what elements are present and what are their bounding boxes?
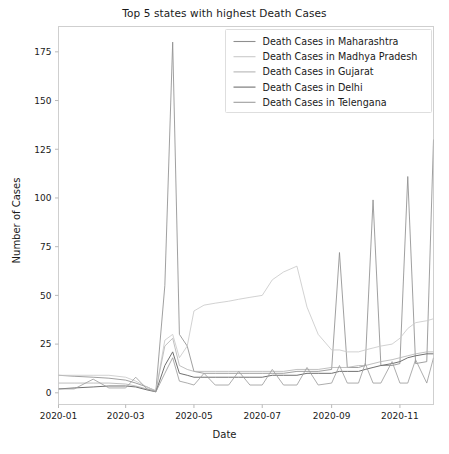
x-tick-label: 2020-09 — [313, 411, 351, 421]
y-tick-label: 0 — [46, 388, 52, 398]
chart-figure: Top 5 states with highest Death Cases Nu… — [0, 0, 449, 454]
x-tick-label: 2020-07 — [243, 411, 281, 421]
x-tick-label: 2020-03 — [107, 411, 145, 421]
y-tick-label: 150 — [34, 96, 51, 106]
x-tick-label: 2020-11 — [381, 411, 419, 421]
y-tick-label: 125 — [34, 145, 51, 155]
legend-label-0: Death Cases in Maharashtra — [263, 36, 399, 47]
x-tick-label: 2020-05 — [175, 411, 213, 421]
y-tick-label: 75 — [40, 242, 51, 252]
y-tick-label: 25 — [40, 339, 51, 349]
y-tick-label: 175 — [34, 47, 51, 57]
y-tick-label: 50 — [40, 291, 52, 301]
chart-legend: Death Cases in MaharashtraDeath Cases in… — [226, 30, 432, 113]
legend-label-2: Death Cases in Gujarat — [263, 66, 374, 77]
chart-plot-area: 02550751001251501752020-012020-032020-05… — [0, 0, 449, 454]
series-line-3 — [59, 352, 434, 392]
legend-label-1: Death Cases in Madhya Pradesh — [263, 51, 418, 62]
legend-label-3: Death Cases in Delhi — [263, 82, 363, 93]
x-tick-label: 2020-01 — [40, 411, 78, 421]
legend-label-4: Death Cases in Telengana — [263, 97, 387, 108]
y-tick-label: 100 — [34, 193, 51, 203]
